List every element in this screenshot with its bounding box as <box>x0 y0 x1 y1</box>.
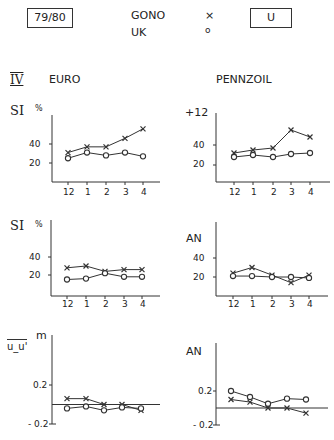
marker-o-icon <box>306 275 311 280</box>
marker-o-icon <box>138 406 143 411</box>
marker-o-icon <box>265 401 270 406</box>
marker-o-icon <box>64 277 69 282</box>
marker-o-icon <box>270 154 275 159</box>
marker-o-icon <box>230 273 235 278</box>
marker-o-icon <box>288 151 293 156</box>
marker-o-icon <box>140 154 145 159</box>
marker-o-icon <box>64 406 69 411</box>
chart-panel-5 <box>49 335 160 424</box>
chart-panel-3 <box>48 220 160 299</box>
marker-x-icon <box>289 280 294 285</box>
marker-x-icon <box>141 126 146 131</box>
marker-o-icon <box>122 150 127 155</box>
marker-o-icon <box>83 276 88 281</box>
marker-x-icon <box>308 135 313 140</box>
marker-o-icon <box>288 274 293 279</box>
plots-canvas <box>0 0 334 440</box>
marker-o-icon <box>284 396 289 401</box>
marker-o-icon <box>303 397 308 402</box>
marker-o-icon <box>231 154 236 159</box>
marker-o-icon <box>307 150 312 155</box>
marker-o-icon <box>102 271 107 276</box>
chart-panel-6 <box>213 343 328 425</box>
marker-o-icon <box>249 273 254 278</box>
marker-o-icon <box>83 404 88 409</box>
marker-o-icon <box>103 153 108 158</box>
marker-x-icon <box>66 150 71 155</box>
marker-o-icon <box>247 394 252 399</box>
chart-panel-4 <box>213 222 328 299</box>
marker-x-icon <box>123 136 128 141</box>
chart-panel-2 <box>213 113 330 185</box>
marker-o-icon <box>121 274 126 279</box>
marker-o-icon <box>228 388 233 393</box>
marker-o-icon <box>139 274 144 279</box>
marker-o-icon <box>65 156 70 161</box>
chart-panel-1 <box>49 115 160 185</box>
marker-o-icon <box>250 152 255 157</box>
marker-o-icon <box>269 274 274 279</box>
marker-x-icon <box>289 128 294 133</box>
marker-x-icon <box>250 265 255 270</box>
marker-o-icon <box>101 408 106 413</box>
marker-o-icon <box>84 150 89 155</box>
marker-o-icon <box>119 405 124 410</box>
